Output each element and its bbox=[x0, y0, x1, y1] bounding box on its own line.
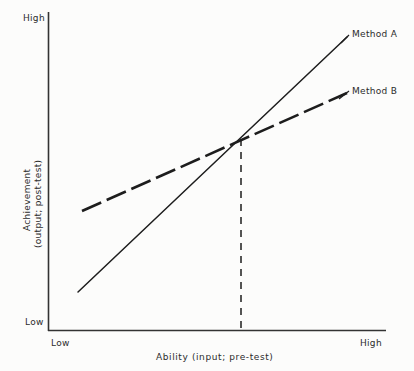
series-line-method-b bbox=[82, 93, 347, 211]
x-axis-tick-low: Low bbox=[51, 338, 70, 348]
x-axis-tick-high: High bbox=[360, 338, 382, 348]
x-axis-title: Ability (input; pre-test) bbox=[156, 352, 273, 362]
aptitude-treatment-interaction-chart: High Low Low High Method A Method B Abil… bbox=[0, 0, 414, 371]
y-axis-tick-low: Low bbox=[25, 317, 44, 327]
series-label-method-b: Method B bbox=[352, 86, 397, 96]
y-axis-tick-high: High bbox=[23, 13, 45, 23]
series-line-method-a bbox=[78, 37, 347, 292]
series-a-leader-line bbox=[341, 35, 349, 43]
chart-plot-area bbox=[0, 0, 414, 371]
y-axis-title-line-1: Achievement bbox=[22, 169, 32, 231]
y-axis-title-line-2: (output; post-test) bbox=[33, 160, 43, 248]
series-label-method-a: Method A bbox=[352, 29, 397, 39]
